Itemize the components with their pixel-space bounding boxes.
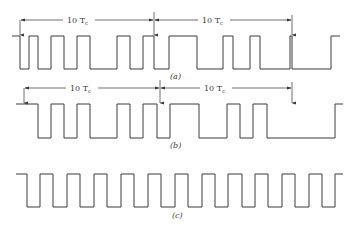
panel-label-a: (a) [170,72,181,81]
dimension-label: 10 Tc [70,84,91,94]
dimension-label: 10 Tc [202,16,223,26]
waveform-b-trace [16,104,343,138]
waveform-a-trace [12,36,340,69]
waveform-figure: 10 Tc10 Tc (a) 10 Tc10 Tc (b) (c) [0,0,355,233]
waveform-a: 10 Tc10 Tc (a) [12,12,340,81]
waveform-b: 10 Tc10 Tc (b) [16,80,343,150]
dimension-label: 10 Tc [67,16,88,26]
panel-label-c: (c) [172,211,183,220]
waveform-a-dimensions: 10 Tc10 Tc [20,12,292,35]
waveform-b-dimensions: 10 Tc10 Tc [24,80,292,103]
panel-label-b: (b) [170,141,181,150]
waveform-c: (c) [16,174,343,220]
dimension-label: 10 Tc [204,84,225,94]
waveform-c-trace [16,174,343,207]
